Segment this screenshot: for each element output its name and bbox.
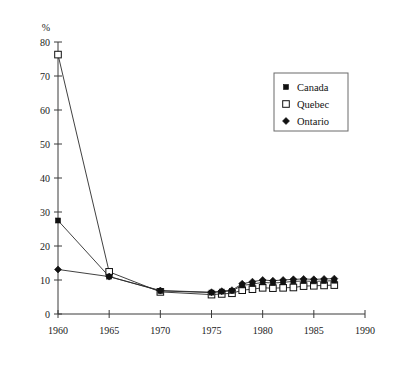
chart-figure: 01020304050607080% 196019651970197519801… [0, 0, 395, 368]
series-markers-canada [56, 218, 337, 295]
x-axis-tick-label: 1975 [202, 325, 222, 336]
x-axis-tick-label: 1980 [253, 325, 273, 336]
y-axis-tick-label: 0 [45, 309, 50, 320]
y-axis-tick-label: 20 [40, 241, 50, 252]
marker-filled-square [284, 85, 289, 90]
legend-label: Quebec [297, 99, 329, 110]
line-chart-canvas: 01020304050607080% 196019651970197519801… [0, 0, 395, 368]
marker-open-square [259, 285, 266, 292]
y-axis-tick-label: 40 [40, 173, 50, 184]
x-axis-tick-label: 1985 [304, 325, 324, 336]
marker-filled-square [56, 218, 61, 223]
marker-open-square [283, 101, 290, 108]
y-axis-tick-label: 70 [40, 71, 50, 82]
y-axis-tick-label: 80 [40, 37, 50, 48]
x-axis-tick-label: 1965 [99, 325, 119, 336]
y-axis-tick-label: 30 [40, 207, 50, 218]
x-axis: 1960196519701975198019851990 [48, 310, 375, 336]
legend-label: Canada [297, 82, 329, 93]
y-axis-tick-label: 60 [40, 105, 50, 116]
marker-filled-diamond [55, 266, 62, 273]
y-axis-tick-label: 10 [40, 275, 50, 286]
legend-label: Ontario [297, 116, 329, 127]
marker-open-square [290, 284, 297, 291]
x-axis-tick-label: 1970 [150, 325, 170, 336]
marker-open-square [280, 285, 287, 292]
marker-open-square [55, 51, 62, 58]
x-axis-tick-label: 1990 [355, 325, 375, 336]
x-axis-tick-label: 1960 [48, 325, 68, 336]
y-axis: 01020304050607080% [40, 22, 62, 320]
y-axis-unit-label: % [42, 22, 50, 33]
y-axis-tick-label: 50 [40, 139, 50, 150]
chart-legend: CanadaQuebecOntario [274, 73, 348, 131]
